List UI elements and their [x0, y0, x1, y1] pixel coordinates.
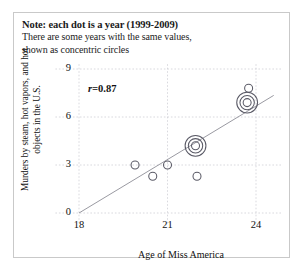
correlation-annotation: r=0.87: [88, 83, 116, 94]
chart-frame: Note: each dot is a year (1999-2009) The…: [13, 12, 290, 258]
y-axis-label: Murders by steam, hot vapors, and hot ob…: [20, 40, 43, 200]
x-tick-label: 18: [66, 219, 92, 230]
x-tick-label: 24: [243, 219, 269, 230]
data-point-marker: [149, 172, 157, 180]
x-axis-label: Age of Miss America: [92, 249, 270, 260]
y-tick-label: 3: [51, 158, 71, 169]
y-tick-label: 6: [51, 110, 71, 121]
data-point-marker: [240, 95, 254, 109]
data-point-marker: [243, 99, 251, 107]
x-tick-label: 21: [155, 219, 181, 230]
y-tick-label: 9: [51, 62, 71, 73]
data-point-marker: [131, 161, 139, 169]
correlation-value: 0.87: [98, 83, 116, 94]
data-markers: [131, 84, 257, 180]
data-point-marker: [245, 84, 253, 92]
correlation-label: r=: [88, 83, 98, 94]
data-point-marker: [193, 172, 201, 180]
y-tick-label: 0: [51, 206, 71, 217]
chart-figure: Note: each dot is a year (1999-2009) The…: [0, 0, 307, 270]
